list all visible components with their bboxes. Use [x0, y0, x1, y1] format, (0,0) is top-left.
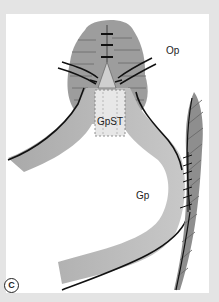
- panel-marker: C: [4, 278, 19, 293]
- gp-label: Gp: [136, 191, 149, 201]
- surgical-illustration: [0, 0, 219, 302]
- op-label: Op: [166, 46, 179, 56]
- gpst-label: GpST: [97, 117, 123, 127]
- gpst-tube: [95, 90, 125, 136]
